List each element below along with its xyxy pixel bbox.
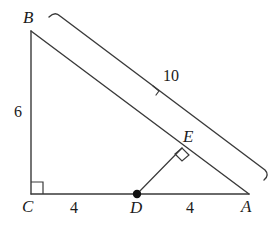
vertex-label-c: C: [22, 198, 33, 215]
measure-label-cd: 4: [70, 200, 78, 216]
dimension-line-ten: [49, 14, 267, 180]
vertex-label-a: A: [241, 198, 251, 215]
measure-label-ba: 10: [163, 68, 179, 84]
vertex-label-d: D: [130, 199, 142, 216]
right-angle-mark-c-icon: [31, 182, 43, 194]
segment-BA: [31, 31, 249, 194]
geometry-canvas: [0, 0, 278, 226]
right-angle-mark-e-icon: [175, 148, 189, 161]
vertex-label-b: B: [23, 9, 33, 26]
measure-label-da: 4: [186, 200, 194, 216]
vertex-label-e: E: [183, 128, 193, 145]
point-marker-d-icon: [133, 190, 141, 198]
geometry-figure: B C D A E 6 10 4 4: [0, 0, 278, 226]
measure-label-bc: 6: [14, 104, 22, 120]
